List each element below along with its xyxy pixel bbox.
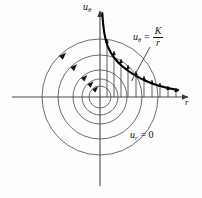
diagram-canvas: [0, 0, 202, 198]
equation-numerator: K: [153, 26, 164, 38]
equation-denominator: r: [153, 38, 164, 49]
u-theta-equation-label: uθ=Kr: [133, 27, 163, 49]
free-vortex-diagram: uθ r uθ=Kr ur= 0: [0, 0, 202, 198]
r-axis-label: r: [185, 98, 189, 107]
radial-velocity-annotation: ur= 0: [130, 130, 154, 141]
streamline-direction-arrows: [59, 51, 100, 93]
u-theta-axis-label: uθ: [83, 2, 91, 13]
equation-equals-sign: =: [144, 31, 150, 42]
